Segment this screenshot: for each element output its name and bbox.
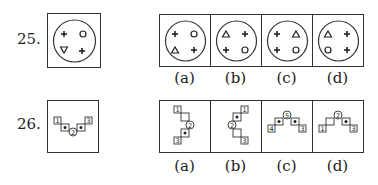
q25-option-c-label: (c) (261, 69, 312, 87)
q25-option-a[interactable] (159, 14, 211, 67)
q26-option-b-figure-icon: 1 3 2 (211, 101, 263, 154)
q26-option-a[interactable]: 1 3 2 (159, 100, 211, 153)
question-number-25: 25. (17, 30, 41, 48)
q25-figure-circle-icon (48, 14, 102, 69)
q25-options-strip (159, 14, 364, 67)
q26-option-b[interactable]: 1 3 2 (210, 100, 262, 153)
q26-option-d-figure-icon: 1 3 2 (313, 101, 365, 154)
svg-text:1: 1 (176, 106, 180, 114)
svg-text:2: 2 (230, 122, 234, 130)
q26-option-d[interactable]: 1 3 2 (312, 100, 364, 153)
q25-option-d-figure-icon (313, 15, 365, 68)
q25-option-c-figure-icon (262, 15, 314, 68)
q26-question-figure: 1 3 2 (47, 100, 99, 153)
svg-text:1: 1 (321, 125, 325, 133)
svg-text:2: 2 (336, 112, 340, 120)
svg-text:1: 1 (56, 117, 60, 125)
q25-option-d[interactable] (312, 14, 364, 67)
q25-question-figure (47, 13, 101, 68)
svg-text:3: 3 (87, 117, 91, 125)
question-number-26: 26. (17, 115, 41, 133)
q25-option-a-label: (a) (159, 69, 210, 87)
svg-text:3: 3 (301, 125, 305, 133)
q26-option-a-label: (a) (159, 157, 210, 175)
q25-option-c[interactable] (261, 14, 313, 67)
q26-option-c-figure-icon: 4 3 5 (262, 101, 314, 154)
q25-option-b-label: (b) (210, 69, 261, 87)
q26-option-a-figure-icon: 1 3 2 (160, 101, 212, 154)
q25-option-a-figure-icon (160, 15, 212, 68)
q26-option-c-label: (c) (261, 157, 312, 175)
svg-text:5: 5 (285, 112, 289, 120)
q25-option-d-label: (d) (312, 69, 363, 87)
q26-option-c[interactable]: 4 3 5 (261, 100, 313, 153)
svg-text:3: 3 (243, 137, 247, 145)
q26-option-b-label: (b) (210, 157, 261, 175)
svg-text:1: 1 (243, 106, 247, 114)
svg-text:2: 2 (71, 129, 75, 137)
q26-option-d-label: (d) (312, 157, 363, 175)
q26-figure-steps-icon: 1 3 2 (48, 101, 100, 154)
svg-text:3: 3 (352, 125, 356, 133)
q25-option-b-figure-icon (211, 15, 263, 68)
svg-text:3: 3 (176, 137, 180, 145)
q25-option-b[interactable] (210, 14, 262, 67)
q26-options-strip: 1 3 2 1 3 2 (159, 100, 364, 153)
svg-text:2: 2 (188, 122, 192, 130)
svg-text:4: 4 (270, 125, 274, 133)
